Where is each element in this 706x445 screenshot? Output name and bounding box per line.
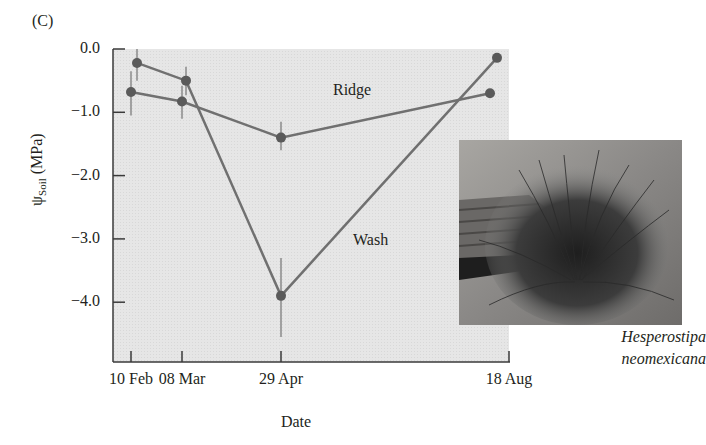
photo-caption: Hesperostipa neomexicana (566, 326, 706, 370)
x-tick-label: 10 Feb (109, 370, 153, 388)
y-tick-label: 0.0 (40, 39, 100, 57)
data-point-marker (177, 97, 187, 107)
photo-illustration (459, 140, 682, 325)
y-tick-label: −4.0 (40, 292, 100, 310)
caption-species: neomexicana (566, 348, 706, 370)
x-tick-label: 29 Apr (259, 370, 303, 388)
plot-background (113, 49, 509, 362)
data-point-marker (485, 88, 495, 98)
data-point-marker (126, 87, 136, 97)
wash-series-label: Wash (353, 231, 388, 249)
data-point-marker (276, 133, 286, 143)
caption-genus: Hesperostipa (566, 326, 706, 348)
x-tick-label: 18 Aug (486, 370, 533, 388)
x-tick-label: 08 Mar (159, 370, 206, 388)
data-point-marker (181, 76, 191, 86)
grass-tussock-photo (459, 140, 682, 325)
ridge-series-label: Ridge (333, 81, 371, 99)
data-point-marker (132, 58, 142, 68)
data-point-marker (276, 291, 286, 301)
y-tick-label: −2.0 (40, 166, 100, 184)
y-tick-label: −1.0 (40, 102, 100, 120)
y-axis-label: ψSoil (MPa) (28, 133, 48, 206)
x-axis-label: Date (281, 413, 311, 431)
y-tick-label: −3.0 (40, 229, 100, 247)
data-point-marker (492, 53, 502, 63)
